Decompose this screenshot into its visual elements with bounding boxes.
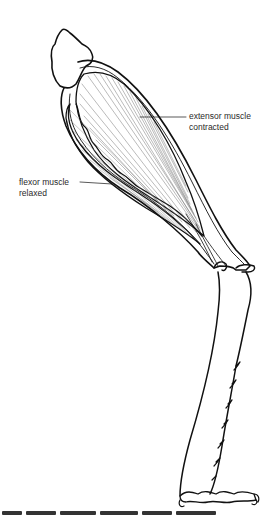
coxa-knob <box>51 29 93 88</box>
flexor-leader-line <box>80 182 112 184</box>
tarsus <box>180 492 256 503</box>
femur-inner-wall <box>69 66 244 264</box>
flexor-label-line2: relaxed <box>19 188 69 199</box>
extensor-label-line1: extensor muscle <box>189 111 251 122</box>
flexor-label-line1: flexor muscle <box>19 177 69 188</box>
extensor-label-line2: contracted <box>189 122 251 133</box>
extensor-muscle-outline <box>76 72 204 236</box>
truncated-caption <box>0 510 280 516</box>
flexor-label: flexor muscle relaxed <box>19 177 69 198</box>
extensor-label: extensor muscle contracted <box>189 111 251 132</box>
flexor-fibres <box>70 110 196 240</box>
tendons <box>186 214 226 266</box>
femur-outline <box>61 60 250 270</box>
tibia-outline <box>180 272 251 496</box>
claws <box>179 494 259 507</box>
leg-diagram <box>0 0 280 516</box>
